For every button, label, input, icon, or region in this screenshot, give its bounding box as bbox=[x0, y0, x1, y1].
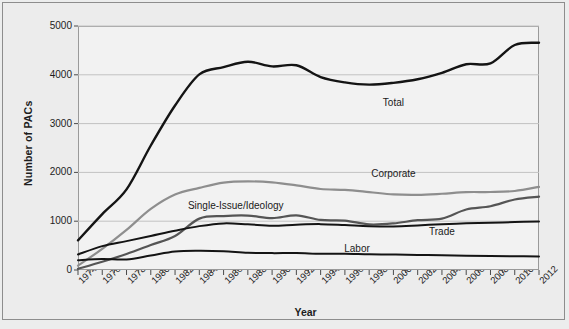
y-tick-label: 2000 bbox=[28, 166, 72, 177]
y-tick-label: 0 bbox=[28, 264, 72, 275]
y-tick-label: 3000 bbox=[28, 118, 72, 129]
y-tick-label: 1000 bbox=[28, 215, 72, 226]
series-label-labor: Labor bbox=[344, 243, 370, 254]
plot-wrapper: TotalCorporateSingle-Issue/IdeologyTrade… bbox=[78, 26, 539, 270]
axis-ticks bbox=[78, 26, 539, 270]
series-label-single-issue-ideology: Single-Issue/Ideology bbox=[188, 200, 284, 211]
x-axis-title-text: Year bbox=[295, 306, 317, 318]
y-tick-label: 4000 bbox=[28, 69, 72, 80]
series-label-corporate: Corporate bbox=[371, 168, 415, 179]
series-label-trade: Trade bbox=[429, 226, 455, 237]
y-tick-label: 5000 bbox=[28, 20, 72, 31]
chart-figure: Number of PACs Year 01000200030004000500… bbox=[0, 0, 569, 329]
series-label-total: Total bbox=[383, 97, 404, 108]
